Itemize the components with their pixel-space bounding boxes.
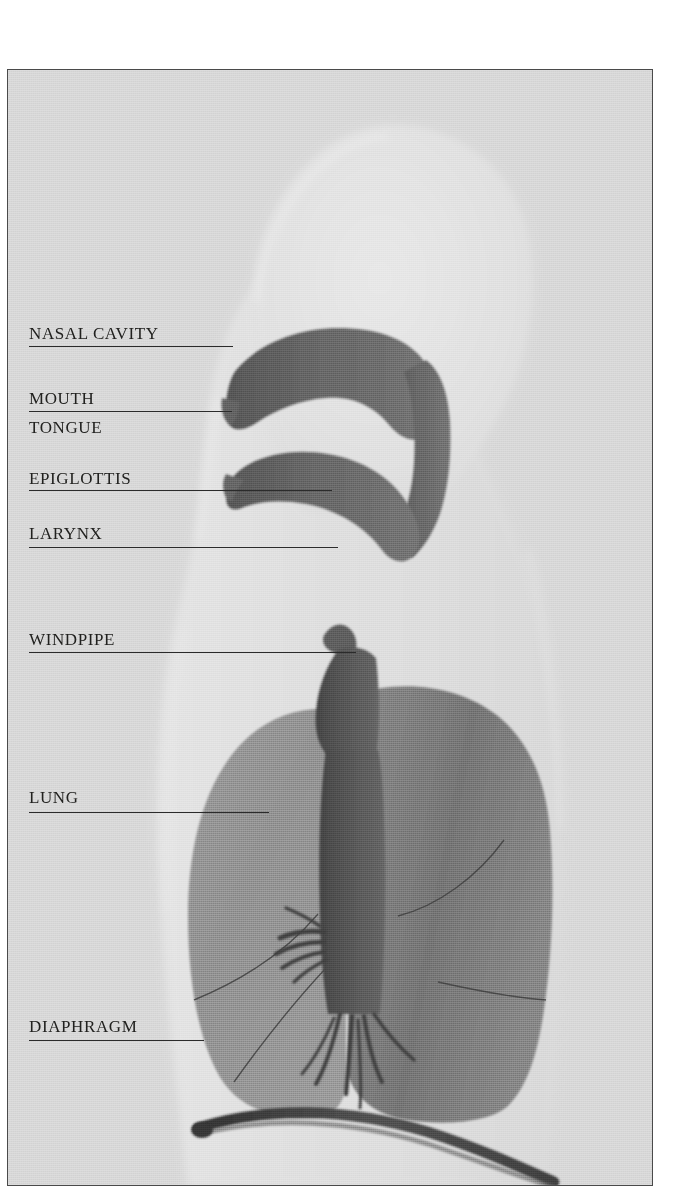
leader-line-mouth: [29, 411, 232, 412]
leader-line-windpipe: [29, 652, 356, 653]
label-mouth: MOUTH: [29, 390, 94, 407]
leader-line-nasal-cavity: [29, 346, 233, 347]
label-nasal-cavity: NASAL CAVITY: [29, 325, 159, 342]
label-larynx: LARYNX: [29, 525, 103, 542]
leader-line-diaphragm: [29, 1040, 204, 1041]
figure-root: NASAL CAVITY MOUTH TONGUE EPIGLOTTIS LAR…: [0, 0, 677, 1202]
illustration-plate: NASAL CAVITY MOUTH TONGUE EPIGLOTTIS LAR…: [7, 69, 653, 1186]
leader-line-epiglottis: [29, 490, 332, 491]
label-lung: LUNG: [29, 789, 79, 806]
label-epiglottis: EPIGLOTTIS: [29, 470, 131, 487]
label-windpipe: WINDPIPE: [29, 631, 115, 648]
trachea: [319, 750, 385, 1014]
leader-line-lung: [29, 812, 269, 813]
label-diaphragm: DIAPHRAGM: [29, 1018, 137, 1035]
leader-line-larynx: [29, 547, 338, 548]
label-tongue: TONGUE: [29, 419, 102, 436]
